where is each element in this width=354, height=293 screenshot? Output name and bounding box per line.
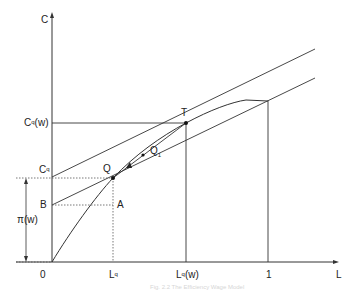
lq-label: Lq	[109, 270, 118, 280]
one-label: 1	[266, 270, 272, 280]
y-axis-arrow-icon	[50, 12, 54, 18]
diagram-canvas	[0, 0, 354, 293]
pi-up-arrow-icon	[24, 178, 28, 184]
y-axis-label: C	[41, 15, 48, 25]
pi-down-arrow-icon	[24, 256, 28, 262]
origin-label: 0	[40, 270, 46, 280]
q-label: Q	[103, 164, 111, 174]
point-q1	[141, 153, 144, 156]
q1-label: Q1	[150, 146, 161, 160]
x-axis-label: L	[336, 270, 342, 280]
b-label: B	[40, 200, 47, 210]
lq-w-label: Lq(w)	[176, 270, 199, 280]
a-label: A	[117, 200, 124, 210]
x-axis-arrow-icon	[333, 260, 339, 264]
point-t	[184, 121, 188, 125]
pi-w-label: π(w)	[17, 215, 38, 225]
point-q	[111, 176, 115, 180]
cq-label: Cq	[39, 165, 50, 175]
lower-parallel-line	[52, 78, 315, 205]
t-label: T	[181, 108, 187, 118]
cq-w-label: Cq(w)	[24, 118, 48, 128]
figure-caption: Fig. 2.2 The Efficiency Wage Model	[150, 284, 244, 290]
